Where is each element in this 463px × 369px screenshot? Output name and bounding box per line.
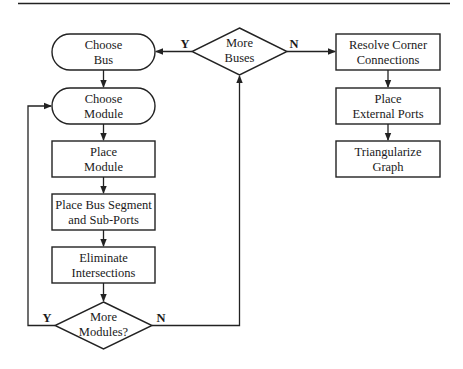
label-more-modules-no: N [156,311,165,325]
node-eliminate-intersections-line1: Eliminate [79,251,128,265]
node-choose-module: Choose Module [52,88,155,124]
node-more-buses-line1: More [226,36,254,50]
node-eliminate-intersections-line2: Intersections [72,266,136,280]
flowchart-canvas: Choose Bus Choose Module Place Module Pl… [0,0,463,369]
node-eliminate-intersections: Eliminate Intersections [52,247,155,283]
label-more-buses-no: N [289,37,298,51]
node-triangularize-graph-line1: Triangularize [355,145,422,159]
label-more-modules-yes: Y [42,311,51,325]
node-choose-module-line2: Module [84,107,123,121]
node-more-modules: More Modules? [55,302,152,349]
edge-more-modules-no [152,76,240,326]
edge-more-modules-yes [28,106,55,326]
node-resolve-corner-connections: Resolve Corner Connections [336,34,440,70]
node-place-module-line2: Module [84,160,123,174]
node-place-external-ports: Place External Ports [336,88,440,124]
node-more-modules-line2: Modules? [79,325,129,339]
node-place-bus-segment: Place Bus Segment and Sub-Ports [52,194,155,230]
node-choose-bus-line1: Choose [85,38,123,52]
label-more-buses-yes: Y [180,37,189,51]
node-choose-bus-line2: Bus [94,53,114,67]
node-resolve-corner-line2: Connections [357,53,420,67]
node-place-module-line1: Place [90,145,118,159]
node-choose-module-line1: Choose [85,92,123,106]
node-place-external-ports-line2: External Ports [352,107,423,121]
node-place-external-ports-line1: Place [374,92,402,106]
node-more-buses-line2: Buses [225,51,255,65]
node-choose-bus: Choose Bus [52,34,155,70]
node-more-buses: More Buses [192,28,287,75]
node-resolve-corner-line1: Resolve Corner [349,38,428,52]
node-place-bus-segment-line1: Place Bus Segment [55,198,152,212]
node-triangularize-graph: Triangularize Graph [336,141,440,177]
node-more-modules-line1: More [90,310,118,324]
node-place-module: Place Module [52,141,155,177]
node-place-bus-segment-line2: and Sub-Ports [68,213,139,227]
node-triangularize-graph-line2: Graph [372,160,404,174]
